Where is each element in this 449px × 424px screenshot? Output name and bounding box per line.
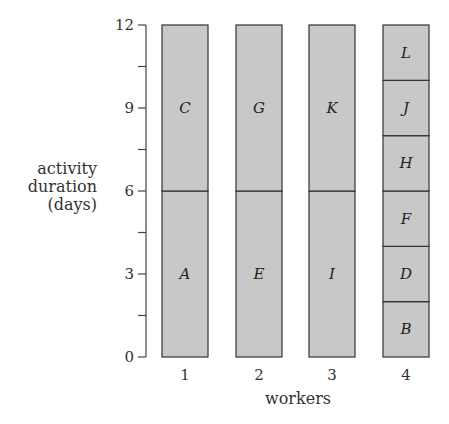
x-tick-label: 1	[180, 366, 190, 384]
y-tick-label: 3	[124, 265, 134, 283]
activity-label: F	[400, 210, 412, 228]
y-tick-label: 12	[115, 16, 134, 34]
y-axis-title-line: duration	[28, 177, 97, 196]
y-tick-label: 9	[124, 99, 134, 117]
x-axis-title: workers	[265, 389, 331, 408]
x-tick-label: 4	[401, 366, 411, 384]
bar-worker-2: EG	[236, 25, 282, 357]
x-tick-label: 3	[327, 366, 337, 384]
y-axis-title: activityduration(days)	[28, 159, 97, 214]
activity-label: C	[179, 99, 191, 117]
y-tick-label: 6	[124, 182, 134, 200]
x-tick-label: 2	[254, 366, 264, 384]
activity-label: G	[253, 99, 265, 117]
activity-label: H	[398, 154, 413, 172]
bar-worker-3: IK	[309, 25, 355, 357]
x-axis-labels: 1234	[180, 366, 411, 384]
activity-label: A	[178, 265, 191, 283]
activity-label: E	[253, 265, 265, 283]
activity-label: D	[399, 265, 412, 283]
y-tick-label: 0	[124, 348, 134, 366]
activity-label: K	[325, 99, 338, 117]
bar-worker-1: AC	[162, 25, 208, 357]
y-axis: 036912	[115, 16, 146, 366]
activity-label: I	[328, 265, 336, 283]
gantt-bar-chart: 036912 ACEGIKBDFHJL 1234 workers activit…	[0, 0, 449, 424]
activity-label: L	[400, 44, 411, 62]
activity-label: B	[399, 320, 411, 338]
y-axis-title-line: (days)	[47, 195, 97, 214]
bars: ACEGIKBDFHJL	[162, 25, 429, 357]
y-axis-title-line: activity	[37, 159, 97, 178]
bar-worker-4: BDFHJL	[383, 25, 429, 357]
